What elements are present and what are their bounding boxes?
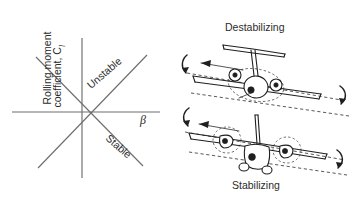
nose-marker-lower xyxy=(249,154,256,161)
right-panel-aircraft: Destabilizing xyxy=(177,0,354,205)
beta-axis-label: β xyxy=(140,114,146,126)
sideslip-arrow-head-lower xyxy=(199,121,209,128)
stabilizing-label: Stabilizing xyxy=(232,180,280,191)
figure-root: Rolling moment coefficient, Cl Unstable … xyxy=(0,0,354,205)
nacelle-left-hub xyxy=(222,138,227,143)
y-axis-label-subscript: l xyxy=(58,45,67,47)
vertical-stabilizer-lower xyxy=(255,115,257,144)
stabilizing-aircraft-svg xyxy=(177,0,354,205)
stabilizing-aircraft-group xyxy=(183,108,347,175)
y-axis-label-line2: coefficient, Cl xyxy=(52,45,66,108)
gear-sponson-right xyxy=(262,166,272,174)
y-axis-label-line2-text: coefficient, C xyxy=(51,47,63,108)
plot-axes-svg xyxy=(0,0,177,205)
nacelle-right-hub xyxy=(282,148,287,153)
left-panel-plot: Rolling moment coefficient, Cl Unstable … xyxy=(0,0,177,205)
gear-sponson-left xyxy=(239,163,249,171)
vertical-stabilizer-right-lower xyxy=(258,115,260,144)
